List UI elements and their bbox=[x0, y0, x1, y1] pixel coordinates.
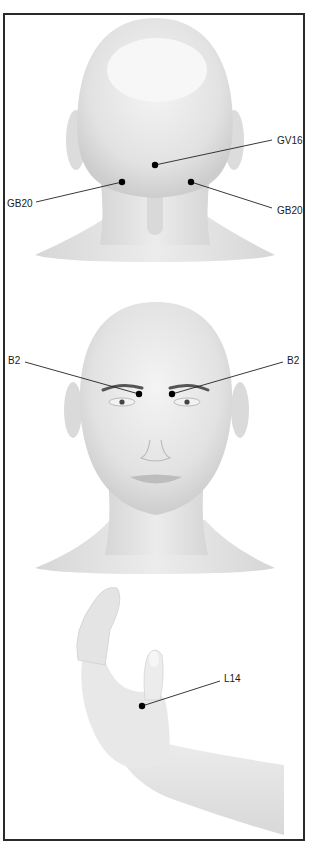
label-l14: L14 bbox=[224, 673, 241, 684]
label-gb20-right: GB20 bbox=[277, 205, 303, 216]
thumbnail bbox=[149, 651, 159, 667]
point-b2-right bbox=[169, 391, 175, 397]
panel-back-of-head bbox=[35, 18, 275, 262]
label-b2-left: B2 bbox=[8, 355, 21, 366]
pupil-left bbox=[119, 399, 124, 404]
head-highlight bbox=[107, 38, 207, 102]
acupressure-diagram: GV16 GB20 GB20 B2 B2 L14 bbox=[0, 0, 315, 848]
point-gb20-right bbox=[188, 179, 194, 185]
fingers bbox=[77, 588, 120, 666]
ear-left-front bbox=[64, 382, 82, 438]
point-b2-left bbox=[136, 391, 142, 397]
ear-right-front bbox=[231, 382, 249, 438]
panel-face bbox=[35, 302, 275, 574]
point-gb20-left bbox=[119, 179, 125, 185]
point-l14 bbox=[139, 703, 145, 709]
label-b2-right: B2 bbox=[287, 355, 300, 366]
panel-hand bbox=[77, 588, 284, 836]
label-gb20-left: GB20 bbox=[7, 198, 33, 209]
point-gv16 bbox=[152, 162, 158, 168]
label-gv16: GV16 bbox=[277, 135, 303, 146]
pupil-right bbox=[184, 399, 189, 404]
